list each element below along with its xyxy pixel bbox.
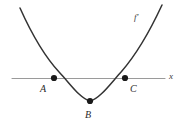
curve-label-f-prime: f′ <box>134 13 138 22</box>
point-marker-a <box>51 75 57 81</box>
derivative-graph-figure: A B C x f′ <box>0 0 188 128</box>
point-label-c: C <box>130 84 137 94</box>
x-axis-label: x <box>169 72 173 81</box>
figure-canvas <box>0 0 188 128</box>
point-marker-b <box>87 98 93 104</box>
point-marker-c <box>122 75 128 81</box>
point-label-a: A <box>40 84 46 94</box>
point-label-b: B <box>85 110 91 120</box>
